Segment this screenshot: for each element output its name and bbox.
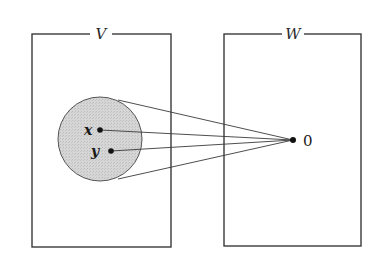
- ray-tangent-top: [118, 100, 293, 140]
- space-w: W: [224, 25, 361, 246]
- space-w-label: W: [285, 25, 302, 43]
- neighborhood-ball: [58, 97, 142, 181]
- ray-tangent-bottom: [118, 140, 293, 179]
- point-x-label: x: [83, 122, 93, 138]
- point-y-dot: [108, 148, 114, 154]
- zero-point-dot: [290, 137, 296, 143]
- point-y-label: y: [90, 143, 100, 159]
- zero-point-label: 0: [303, 132, 313, 150]
- point-x-dot: [97, 127, 103, 133]
- diagram-canvas: V W x y 0: [0, 0, 384, 264]
